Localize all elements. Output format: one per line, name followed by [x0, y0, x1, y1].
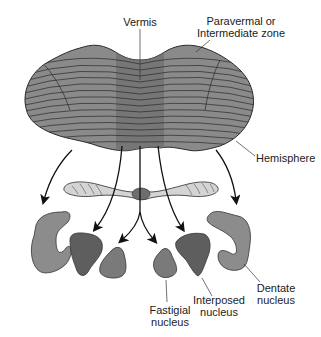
- label-paravermal: Paravermal or Intermediate zone: [196, 15, 286, 39]
- arrow-hemisphere-right: [216, 150, 236, 200]
- cerebellum-diagram: Vermis Paravermal or Intermediate zone H…: [0, 0, 321, 337]
- label-interposed-line1: Interposed: [192, 294, 246, 306]
- ventricle-shape: [64, 182, 218, 200]
- label-paravermal-line1: Paravermal or: [196, 15, 286, 27]
- interposed-nucleus-left: [70, 233, 102, 276]
- fastigial-nucleus-left: [100, 247, 126, 278]
- label-interposed-line2: nucleus: [192, 306, 246, 318]
- label-fastigial-line2: nucleus: [148, 316, 192, 328]
- label-vermis: Vermis: [118, 16, 162, 28]
- label-paravermal-line2: Intermediate zone: [196, 27, 286, 39]
- label-interposed: Interposed nucleus: [192, 294, 246, 318]
- leader-fastigial: [166, 280, 167, 302]
- label-dentate-line2: nucleus: [256, 294, 296, 306]
- fastigial-nucleus-right: [153, 249, 176, 278]
- leader-dentate: [244, 264, 260, 282]
- dentate-nucleus-left: [31, 212, 71, 273]
- label-dentate: Dentate nucleus: [256, 282, 296, 306]
- label-fastigial-line1: Fastigial: [148, 304, 192, 316]
- arrow-vermis-right: [140, 212, 154, 240]
- interposed-nucleus-right: [176, 233, 210, 276]
- dentate-nucleus-right: [207, 211, 250, 270]
- label-dentate-line1: Dentate: [256, 282, 296, 294]
- leader-hemisphere: [236, 141, 255, 156]
- label-hemisphere: Hemisphere: [256, 152, 315, 164]
- label-fastigial: Fastigial nucleus: [148, 304, 192, 328]
